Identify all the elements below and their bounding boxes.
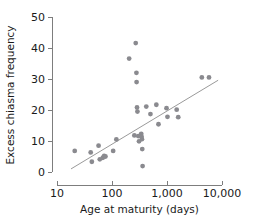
data-point-0: [72, 149, 77, 154]
scatter-plot: 01020304050Excess chiasma frequency10100…: [0, 0, 256, 223]
y-tick-label-20: 20: [31, 104, 45, 117]
data-point-31: [176, 115, 181, 120]
data-point-30: [174, 107, 179, 112]
y-axis-title: Excess chiasma frequency: [4, 25, 16, 164]
data-point-29: [165, 114, 170, 119]
y-tick-label-0: 0: [38, 166, 45, 179]
data-point-13: [134, 70, 139, 75]
y-tick-label-50: 50: [31, 11, 45, 24]
data-point-25: [148, 112, 153, 117]
data-point-7: [103, 154, 108, 159]
x-tick-label-100: 100: [102, 187, 123, 200]
data-point-22: [140, 147, 145, 152]
data-point-10: [127, 56, 132, 61]
x-tick-label-10000: 10,000: [203, 187, 242, 200]
data-point-12: [133, 41, 138, 46]
data-point-14: [134, 80, 139, 85]
x-tick-label-1000: 1,000: [151, 187, 183, 200]
x-axis-title: Age at maturity (days): [80, 203, 199, 215]
chart-figure: 01020304050Excess chiasma frequency10100…: [0, 0, 256, 223]
data-point-32: [199, 75, 204, 80]
x-tick-label-10: 10: [50, 187, 64, 200]
data-point-16: [135, 109, 140, 114]
data-point-26: [154, 102, 159, 107]
data-point-9: [114, 137, 119, 142]
data-point-24: [144, 104, 149, 109]
data-point-23: [140, 164, 145, 169]
data-point-27: [156, 122, 161, 127]
data-point-21: [140, 137, 145, 142]
data-point-1: [88, 150, 93, 155]
data-point-8: [111, 149, 116, 154]
y-tick-label-30: 30: [31, 73, 45, 86]
data-point-3: [96, 143, 101, 148]
data-point-28: [164, 106, 169, 111]
data-point-2: [89, 159, 94, 164]
regression-line: [71, 80, 218, 169]
data-point-33: [207, 75, 212, 80]
y-tick-label-40: 40: [31, 42, 45, 55]
y-tick-label-10: 10: [31, 135, 45, 148]
